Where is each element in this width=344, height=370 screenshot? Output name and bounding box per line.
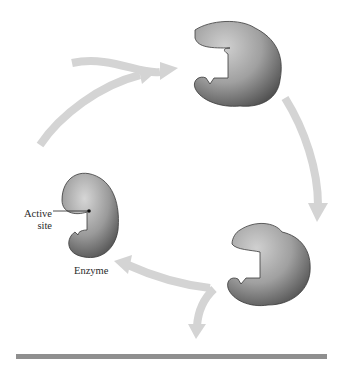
active-site-label-line2: site [14, 220, 52, 232]
arrow-cycle-top-to-bottom-head [308, 203, 328, 222]
enzyme-cycle-diagram [0, 0, 344, 370]
active-site-label-line1: Active [14, 208, 52, 220]
enzyme-label: Enzyme [74, 265, 108, 277]
arrow-cycle-bottom-to-left-head [114, 255, 132, 274]
arrow-product-out-head [188, 324, 206, 339]
enzyme-top-shape [194, 21, 281, 106]
arrow-substrate-in-head [160, 62, 178, 80]
baseline-bar [16, 354, 327, 359]
arrow-cycle-left-to-top [40, 75, 140, 145]
enzyme-bottom-shape [228, 223, 311, 305]
active-site-label: Active site [14, 208, 52, 232]
arrow-cycle-bottom-to-left [128, 265, 210, 288]
arrow-product-out [197, 289, 214, 326]
arrow-cycle-top-to-bottom [285, 98, 318, 205]
enzyme-free-shape [62, 173, 118, 257]
